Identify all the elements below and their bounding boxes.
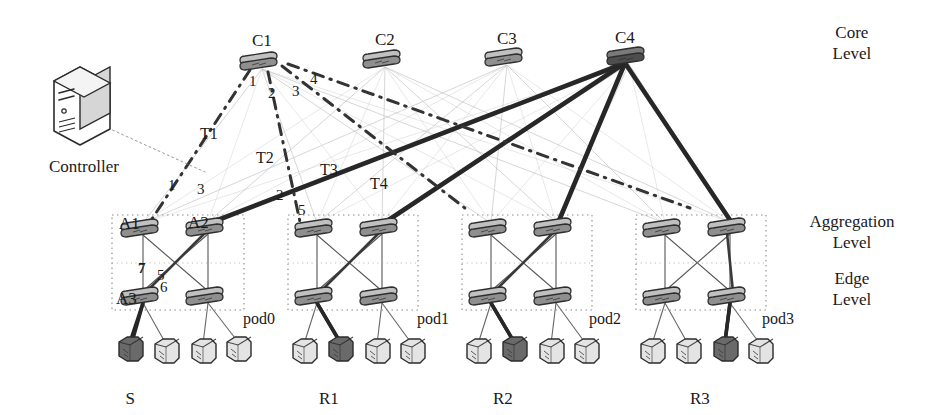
core-switch-c2[interactable] [363, 50, 400, 68]
core-switch-label-c1: C1 [252, 32, 272, 49]
aggregation-switch-pod2-1[interactable] [534, 218, 571, 236]
port-number-4: 1 [168, 178, 176, 193]
host-pod3-2[interactable] [714, 337, 738, 361]
controller-node[interactable] [54, 67, 110, 145]
host-pod3-0[interactable] [641, 339, 665, 363]
host-pod1-2[interactable] [366, 339, 390, 363]
host-label-pod2-1: R2 [493, 390, 513, 407]
host-pod1-0[interactable] [293, 339, 317, 363]
nodes-layer [0, 0, 928, 415]
level-label-edge: EdgeLevel [833, 268, 872, 311]
host-pod0-3[interactable] [227, 337, 251, 361]
host-pod0-1[interactable] [155, 339, 179, 363]
level-label-core-line2: Level [833, 43, 872, 64]
host-label-pod1-1: R1 [319, 390, 339, 407]
edge-switch-pod1-0[interactable] [295, 287, 332, 305]
host-pod3-1[interactable] [677, 339, 701, 363]
host-pod1-3[interactable] [401, 339, 425, 363]
host-pod2-3[interactable] [575, 339, 599, 363]
flow-label-t1: T1 [200, 126, 218, 142]
level-label-aggregation: AggregationLevel [810, 211, 895, 254]
host-pod2-2[interactable] [540, 339, 564, 363]
pod-label-pod1: pod1 [417, 311, 449, 327]
flow-label-t2: T2 [256, 150, 274, 166]
edge-switch-pod2-1[interactable] [534, 287, 571, 305]
core-switch-label-c3: C3 [497, 30, 517, 47]
edge-switch-pod1-1[interactable] [360, 287, 397, 305]
edge-switch-label-pod0-0: A3 [116, 290, 137, 307]
port-number-8: 7 [138, 261, 146, 276]
host-pod0-0[interactable] [119, 337, 143, 361]
flow-label-t3: T3 [320, 162, 338, 178]
aggregation-switch-label-pod0-1: A2 [188, 214, 209, 231]
level-label-edge-line2: Level [833, 289, 872, 310]
aggregation-switch-pod3-1[interactable] [708, 218, 745, 236]
core-switch-c3[interactable] [485, 48, 522, 66]
edge-switch-pod0-1[interactable] [186, 287, 223, 305]
port-number-2: 3 [292, 84, 300, 99]
port-number-6: 2 [276, 188, 284, 203]
aggregation-switch-pod3-0[interactable] [643, 219, 680, 237]
host-pod1-1[interactable] [329, 337, 353, 361]
host-label-pod3-2: R3 [690, 390, 710, 407]
aggregation-switch-pod1-1[interactable] [360, 218, 397, 236]
aggregation-switch-pod2-0[interactable] [469, 219, 506, 237]
flow-label-t4: T4 [370, 176, 388, 192]
host-pod0-2[interactable] [192, 339, 216, 363]
network-topology-diagram: ControllerC1C2C3C4pod0A1A2A3Spod1R1pod2R… [0, 0, 928, 415]
core-switch-label-c4: C4 [615, 29, 635, 46]
port-number-0: 1 [249, 74, 257, 89]
level-label-core: CoreLevel [833, 22, 872, 65]
host-label-pod0-0: S [126, 390, 135, 407]
port-number-3: 4 [310, 72, 318, 87]
port-number-10: 6 [160, 280, 168, 295]
aggregation-switch-label-pod0-0: A1 [119, 215, 140, 232]
host-pod2-0[interactable] [467, 339, 491, 363]
controller-label: Controller [49, 158, 119, 175]
level-label-edge-line1: Edge [833, 268, 872, 289]
port-number-7: 5 [298, 203, 306, 218]
pod-label-pod2: pod2 [589, 311, 621, 327]
port-number-1: 2 [268, 86, 276, 101]
level-label-core-line1: Core [833, 22, 872, 43]
edge-switch-pod2-0[interactable] [469, 287, 506, 305]
aggregation-switch-pod1-0[interactable] [295, 219, 332, 237]
core-switch-c4[interactable] [607, 47, 644, 65]
port-number-5: 3 [197, 182, 205, 197]
pod-label-pod3: pod3 [762, 311, 794, 327]
core-switch-label-c2: C2 [375, 31, 395, 48]
host-pod3-3[interactable] [749, 339, 773, 363]
core-switch-c1[interactable] [240, 52, 277, 70]
level-label-aggregation-line2: Level [810, 232, 895, 253]
pod-label-pod0: pod0 [243, 311, 275, 327]
level-label-aggregation-line1: Aggregation [810, 211, 895, 232]
edge-switch-pod3-1[interactable] [708, 287, 745, 305]
edge-switch-pod3-0[interactable] [643, 287, 680, 305]
host-pod2-1[interactable] [503, 337, 527, 361]
